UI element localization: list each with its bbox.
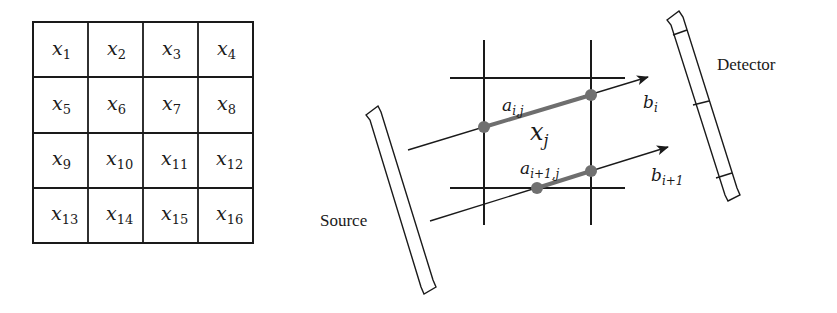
- pixel-cell-label: x9: [52, 147, 71, 172]
- weight-label-upper: ai,j: [502, 95, 524, 118]
- pixel-cell-label: x12: [216, 147, 243, 172]
- pixel-cell-label: x7: [162, 92, 181, 117]
- pixel-cell-label: x3: [162, 37, 181, 62]
- pixel-cell-label: x6: [107, 92, 126, 117]
- intersection-node: [585, 165, 597, 177]
- detector-label: Detector: [717, 55, 776, 74]
- weight-label-lower: ai+1,j: [520, 158, 559, 181]
- pixel-cell-label: x15: [161, 202, 188, 227]
- pixel-cell-label: x2: [107, 37, 126, 62]
- measurement-label-upper: bi: [643, 92, 658, 115]
- measurement-label-lower: bi+1: [651, 165, 683, 188]
- source-label: Source: [320, 211, 367, 230]
- pixel-cell-label: x14: [106, 202, 133, 227]
- pixel-grid: x1 x2 x3 x4 x5 x6 x7 x8 x9 x10 x11 x12 x…: [33, 22, 253, 243]
- pixel-cell-label: x16: [216, 202, 243, 227]
- intersection-node: [478, 121, 490, 133]
- intersection-node: [531, 182, 543, 194]
- pixel-cell-label: x8: [217, 92, 236, 117]
- pixel-cell-label: x13: [51, 202, 78, 227]
- tomography-diagram: x1 x2 x3 x4 x5 x6 x7 x8 x9 x10 x11 x12 x…: [0, 0, 837, 313]
- pixel-cell-label: x11: [161, 147, 188, 172]
- pixel-cell-label: x5: [52, 92, 71, 117]
- pixel-cell-label: x1: [52, 37, 71, 62]
- pixel-cell-label: x4: [217, 37, 236, 62]
- pixel-label: xj: [530, 118, 549, 150]
- detector-plate: [667, 11, 740, 201]
- source-plate: [366, 106, 436, 294]
- intersection-node: [585, 89, 597, 101]
- pixel-cell-label: x10: [106, 147, 133, 172]
